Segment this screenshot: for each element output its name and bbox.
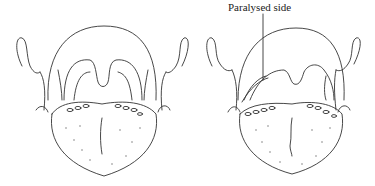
paralysed-throat: [207, 14, 361, 174]
normal-throat: [17, 26, 189, 176]
throat-diagram: [0, 0, 375, 186]
